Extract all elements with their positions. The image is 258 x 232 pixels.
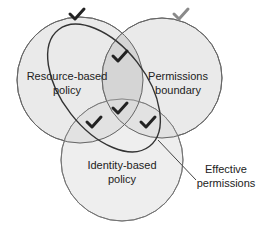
venn-diagram: Resource-based policy Permissions bounda… <box>0 0 258 232</box>
identity-based-label-2: policy <box>108 173 137 185</box>
effective-permissions-label-2: permissions <box>197 177 256 189</box>
permissions-boundary-label-2: boundary <box>155 84 201 96</box>
resource-based-label: Resource-based <box>27 70 108 82</box>
check-icon <box>174 9 188 19</box>
resource-based-label-2: policy <box>53 84 82 96</box>
identity-based-label: Identity-based <box>87 159 156 171</box>
permissions-boundary-label: Permissions <box>148 70 208 82</box>
effective-permissions-label: Effective <box>205 163 247 175</box>
